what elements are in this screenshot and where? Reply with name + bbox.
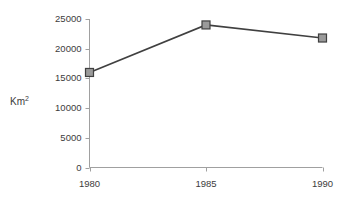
chart-axes bbox=[90, 19, 323, 168]
y-axis-tick-label: 20000 bbox=[55, 44, 81, 54]
data-point-marker bbox=[202, 21, 210, 29]
data-point-marker bbox=[86, 68, 94, 76]
series-line bbox=[90, 25, 323, 73]
y-axis-tick-label: 25000 bbox=[55, 14, 81, 24]
x-axis-ticks bbox=[91, 168, 324, 172]
line-chart: Km2 0500010000150002000025000 1980198519… bbox=[0, 0, 352, 198]
x-axis-tick-label: 1990 bbox=[312, 179, 333, 189]
data-series-area bbox=[86, 21, 327, 77]
y-axis-tick-label: 10000 bbox=[55, 103, 81, 113]
y-axis-title: Km2 bbox=[10, 97, 29, 107]
y-axis-title-superscript: 2 bbox=[25, 95, 29, 102]
y-axis-ticks bbox=[86, 20, 90, 169]
y-axis-tick-label: 5000 bbox=[60, 133, 81, 143]
x-axis-tick-label: 1980 bbox=[79, 179, 100, 189]
chart-plot-area bbox=[0, 0, 352, 198]
y-axis-title-text: Km bbox=[10, 96, 25, 107]
data-point-markers bbox=[86, 21, 327, 77]
x-axis-tick-label: 1985 bbox=[195, 179, 216, 189]
y-axis-tick-label: 0 bbox=[76, 163, 81, 173]
y-axis-tick-label: 15000 bbox=[55, 74, 81, 84]
data-point-marker bbox=[319, 34, 327, 42]
